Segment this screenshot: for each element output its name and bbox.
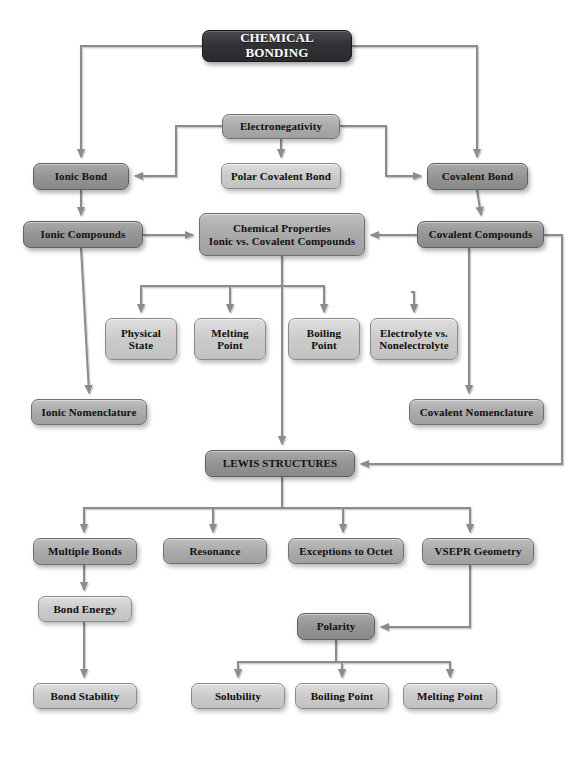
connector-polarity-to-melting (336, 662, 450, 677)
connector-lewis-to-exceptions (282, 508, 343, 532)
node-label-physical-state: Physical State (116, 327, 166, 352)
node-label-ionic-nomenclature: Ionic Nomenclature (37, 406, 142, 418)
node-chemical-bonding[interactable]: CHEMICAL BONDING (202, 30, 352, 62)
node-electronegativity[interactable]: Electronegativity (222, 114, 340, 139)
node-label-polar-covalent-bond: Polar Covalent Bond (226, 170, 336, 182)
node-physical-state[interactable]: Physical State (105, 318, 177, 360)
node-label-boiling-point-2: Boiling Point (306, 690, 379, 702)
node-label-covalent-compounds: Covalent Compounds (424, 228, 538, 240)
node-chemical-properties[interactable]: Chemical Properties Ionic vs. Covalent C… (199, 213, 365, 256)
node-label-ionic-compounds: Ionic Compounds (36, 228, 131, 240)
node-vsepr-geometry[interactable]: VSEPR Geometry (422, 538, 534, 565)
connector-group (81, 46, 562, 677)
flowchart-canvas: CHEMICAL BONDINGElectronegativityIonic B… (0, 0, 584, 757)
connector-properties-to-boiling (282, 286, 324, 312)
connector-covalent-bond-to-compounds (477, 190, 481, 215)
node-electrolyte-vs-nonelectrolyte[interactable]: Electrolyte vs. Nonelectrolyte (370, 318, 458, 360)
node-label-multiple-bonds: Multiple Bonds (43, 545, 127, 557)
node-label-covalent-bond: Covalent Bond (437, 170, 518, 182)
node-label-chemical-properties: Chemical Properties Ionic vs. Covalent C… (204, 222, 360, 247)
node-multiple-bonds[interactable]: Multiple Bonds (33, 538, 137, 565)
node-label-ionic-bond: Ionic Bond (50, 170, 113, 182)
node-melting-point-2[interactable]: Melting Point (403, 683, 497, 709)
node-label-vsepr-geometry: VSEPR Geometry (429, 545, 526, 557)
connector-properties-to-melting (230, 286, 282, 312)
node-exceptions-to-octet[interactable]: Exceptions to Octet (288, 538, 404, 564)
connector-vsepr-to-polarity (381, 565, 470, 627)
connector-electroneg-to-covalent-bond (340, 126, 421, 176)
node-lewis-structures[interactable]: LEWIS STRUCTURES (205, 450, 355, 477)
node-melting-point-1[interactable]: Melting Point (194, 318, 266, 360)
node-ionic-compounds[interactable]: Ionic Compounds (23, 221, 143, 248)
node-covalent-bond[interactable]: Covalent Bond (427, 163, 528, 190)
node-boiling-point-1[interactable]: Boiling Point (288, 318, 360, 360)
connector-properties-to-fanout (141, 256, 282, 312)
node-bond-energy[interactable]: Bond Energy (38, 596, 132, 622)
node-label-melting-point-2: Melting Point (412, 690, 488, 702)
node-label-bond-energy: Bond Energy (48, 603, 121, 615)
node-bond-stability[interactable]: Bond Stability (33, 683, 137, 709)
node-label-exceptions-to-octet: Exceptions to Octet (294, 545, 398, 557)
node-solubility[interactable]: Solubility (191, 683, 285, 709)
node-boiling-point-2[interactable]: Boiling Point (295, 683, 389, 709)
node-covalent-compounds[interactable]: Covalent Compounds (417, 221, 544, 248)
connector-bonding-to-ionic-bond (81, 46, 202, 157)
node-ionic-nomenclature[interactable]: Ionic Nomenclature (31, 399, 147, 425)
connector-polarity-to-solubility (238, 640, 336, 677)
connector-ionic-comp-to-nomenclature (81, 248, 89, 393)
node-covalent-nomenclature[interactable]: Covalent Nomenclature (409, 399, 544, 425)
node-label-covalent-nomenclature: Covalent Nomenclature (415, 406, 538, 418)
node-label-melting-point-1: Melting Point (206, 327, 253, 352)
connector-bonding-to-covalent-bond (352, 46, 477, 157)
connector-lewis-to-vsepr (282, 508, 470, 532)
node-ionic-bond[interactable]: Ionic Bond (33, 163, 129, 190)
node-label-lewis-structures: LEWIS STRUCTURES (218, 457, 342, 469)
node-label-chemical-bonding: CHEMICAL BONDING (203, 31, 351, 60)
node-label-electrolyte-vs-nonelectrolyte: Electrolyte vs. Nonelectrolyte (374, 327, 454, 352)
connector-lewis-to-multiple-bonds (84, 477, 282, 532)
node-polar-covalent-bond[interactable]: Polar Covalent Bond (221, 163, 341, 189)
node-label-bond-stability: Bond Stability (46, 690, 125, 702)
node-label-electronegativity: Electronegativity (235, 120, 327, 132)
node-label-polarity: Polarity (312, 620, 361, 632)
connector-electroneg-to-ionic-bond (135, 126, 222, 176)
node-polarity[interactable]: Polarity (297, 613, 375, 640)
connector-lewis-to-resonance (213, 508, 282, 532)
node-label-resonance: Resonance (184, 545, 245, 557)
connector-covalent-comp-to-electrolyte (411, 292, 414, 312)
node-resonance[interactable]: Resonance (163, 538, 267, 564)
node-label-boiling-point-1: Boiling Point (302, 327, 346, 352)
node-label-solubility: Solubility (210, 690, 266, 702)
connector-polarity-to-boiling (336, 662, 342, 677)
